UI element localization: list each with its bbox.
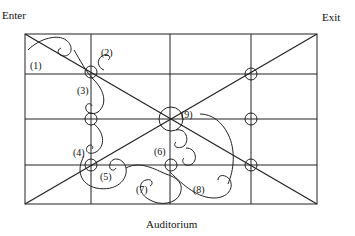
marker-5: (5) <box>100 171 112 183</box>
marker-4: (4) <box>73 147 85 159</box>
marker-3: (3) <box>77 85 89 97</box>
marker-7: (7) <box>136 184 148 196</box>
marker-9: (9) <box>181 109 193 121</box>
marker-2: (2) <box>101 47 113 59</box>
swirl-6b <box>183 148 196 165</box>
marker-8: (8) <box>193 184 205 196</box>
swirl-6a <box>175 130 187 148</box>
marker-1: (1) <box>30 60 42 72</box>
marker-6: (6) <box>154 146 166 158</box>
swirl-9-loop <box>200 114 233 184</box>
swirl-4 <box>86 124 102 153</box>
path-diagram: (1) (2) (3) (4) (5) (6) (7) (8) (9) <box>0 0 355 236</box>
